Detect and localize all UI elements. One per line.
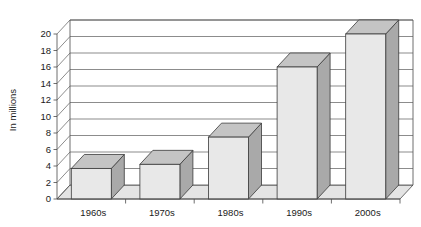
y-tick-label: 16 xyxy=(40,61,51,72)
y-tick-label: 20 xyxy=(40,28,51,39)
depth-connector xyxy=(57,119,70,133)
x-category-label: 2000s xyxy=(355,207,381,218)
y-tick-label: 8 xyxy=(46,127,51,138)
depth-connector xyxy=(57,53,70,67)
x-category-label: 1960s xyxy=(80,207,106,218)
bar-column xyxy=(277,53,330,199)
bar-column xyxy=(209,123,262,199)
depth-connector xyxy=(57,136,70,150)
y-tick-label: 10 xyxy=(40,111,51,122)
bar-front-face xyxy=(346,34,386,199)
bar-column xyxy=(71,154,124,199)
y-tick-label: 6 xyxy=(46,144,51,155)
y-tick-label: 18 xyxy=(40,45,51,56)
depth-connector xyxy=(57,103,70,117)
y-axis: 02468101214161820 xyxy=(40,28,57,204)
bar-column xyxy=(346,20,399,199)
y-tick-label: 12 xyxy=(40,94,51,105)
depth-connector xyxy=(57,20,70,34)
y-tick-label: 0 xyxy=(46,193,51,204)
x-category-label: 1990s xyxy=(286,207,312,218)
x-axis: 1960s1970s1980s1990s2000s xyxy=(57,199,400,218)
depth-connector xyxy=(57,86,70,100)
y-tick-label: 14 xyxy=(40,78,51,89)
bar-front-face xyxy=(277,67,317,199)
depth-connector xyxy=(57,70,70,84)
bar-side-face xyxy=(386,20,399,199)
y-tick-label: 4 xyxy=(46,160,51,171)
bar-chart-figure: 02468101214161820 1960s1970s1980s1990s20… xyxy=(0,0,421,227)
depth-connector xyxy=(57,169,70,183)
bar-front-face xyxy=(71,168,111,199)
y-tick-label: 2 xyxy=(46,177,51,188)
bar-front-face xyxy=(209,137,249,199)
depth-connector-group xyxy=(57,20,70,199)
bar-side-face xyxy=(317,53,330,199)
chart-canvas: 02468101214161820 1960s1970s1980s1990s20… xyxy=(0,0,421,227)
y-axis-title: In millions xyxy=(7,89,18,131)
depth-connector xyxy=(57,37,70,51)
x-category-label: 1980s xyxy=(218,207,244,218)
bar-front-face xyxy=(140,164,180,199)
bar-column xyxy=(140,150,193,199)
x-category-label: 1970s xyxy=(149,207,175,218)
depth-connector xyxy=(57,152,70,166)
